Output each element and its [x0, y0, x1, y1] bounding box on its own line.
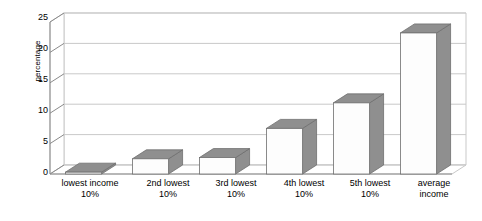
- bar-front-face: [65, 172, 101, 174]
- bar: [400, 24, 450, 174]
- x-tick-label-line1: average: [390, 178, 478, 189]
- bar: [199, 149, 249, 174]
- bar-front-face: [199, 158, 235, 174]
- bar: [333, 94, 383, 174]
- plot-left-wall: [50, 13, 64, 174]
- x-tick-label-line2: income: [390, 189, 478, 200]
- x-tick-label-line2: 10%: [46, 189, 134, 200]
- bar-side-face: [370, 94, 384, 174]
- bar-side-face: [303, 119, 317, 174]
- bar-front-face: [333, 103, 369, 174]
- bar-chart: percentage 0 5 10 15 20 25 lowest income…: [0, 0, 482, 221]
- bar-front-face: [400, 33, 436, 174]
- x-axis-tick-labels: lowest income 10% 2nd lowest 10% 3rd low…: [0, 178, 482, 218]
- x-tick-label: average income: [390, 178, 478, 200]
- x-tick-label: lowest income 10%: [46, 178, 134, 200]
- bar: [266, 119, 316, 174]
- x-tick-label-line1: lowest income: [46, 178, 134, 189]
- bar-side-face: [437, 24, 451, 174]
- bar-front-face: [132, 159, 168, 174]
- bar-front-face: [266, 128, 302, 174]
